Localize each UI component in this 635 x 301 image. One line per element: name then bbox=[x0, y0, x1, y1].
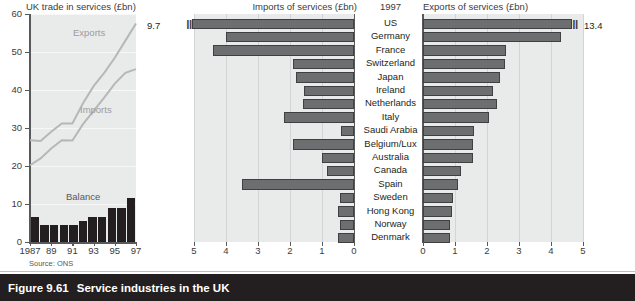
exports-x-tick-mark bbox=[583, 242, 584, 246]
country-label: Saudi Arabia bbox=[356, 124, 425, 135]
exports-bar bbox=[423, 166, 461, 177]
line-chart-x-tick-mark bbox=[136, 242, 137, 246]
imports-gridline bbox=[194, 14, 195, 242]
exports-us-outlier-label: 13.4 bbox=[584, 20, 603, 31]
imports-x-tick-mark bbox=[354, 242, 355, 246]
figure-service-industries-uk: UK trade in services (£bn) 6050403020100… bbox=[0, 0, 635, 301]
exports-chart-panel: Exports of services (£bn) 012345 ‖ 13.4 bbox=[421, 0, 635, 272]
country-label: Norway bbox=[356, 218, 425, 229]
exports-bar bbox=[423, 206, 452, 217]
exports-bar bbox=[423, 19, 572, 30]
country-label: Netherlands bbox=[356, 97, 425, 108]
country-label-column: 1997 USGermanyFranceSwitzerlandJapanIrel… bbox=[360, 0, 421, 272]
exports-bar bbox=[423, 86, 493, 97]
imports-bar bbox=[293, 139, 354, 150]
line-chart-y-tick-mark bbox=[25, 14, 30, 15]
exports-x-tick-mark bbox=[519, 242, 520, 246]
exports-bar bbox=[423, 99, 497, 110]
imports-bar bbox=[192, 19, 354, 30]
exports-x-tick-mark bbox=[455, 242, 456, 246]
exports-bar bbox=[423, 72, 500, 83]
line-chart-x-tick-label: 97 bbox=[121, 245, 151, 256]
line-chart-y-tick-mark bbox=[25, 166, 30, 167]
figure-number: Figure 9.61 bbox=[8, 282, 69, 294]
exports-x-tick-label: 0 bbox=[416, 245, 430, 256]
exports-x-tick-mark bbox=[423, 242, 424, 246]
country-label: Belgium/Lux bbox=[356, 138, 425, 149]
exports-gridline bbox=[551, 14, 552, 242]
imports-bar bbox=[303, 99, 354, 110]
imports-bar bbox=[284, 112, 354, 123]
country-label: Sweden bbox=[356, 191, 425, 202]
figure-caption-bar: Figure 9.61 Service industries in the UK bbox=[0, 274, 635, 301]
country-label: Hong Kong bbox=[356, 205, 425, 216]
exports-bar bbox=[423, 153, 473, 164]
line-chart-y-tick-label: 50 bbox=[0, 46, 22, 57]
series-label-exports: Exports bbox=[73, 27, 105, 38]
imports-bar bbox=[338, 233, 354, 244]
country-label: Denmark bbox=[356, 231, 425, 242]
imports-x-tick-mark bbox=[258, 242, 259, 246]
imports-us-outlier-label: 9.7 bbox=[147, 20, 160, 31]
imports-chart-panel: Imports of services (£bn) 543210 ‖ 9.7 bbox=[160, 0, 360, 272]
exports-gridline bbox=[519, 14, 520, 242]
line-series-imports bbox=[30, 69, 136, 165]
exports-break-mark-icon: ‖ bbox=[572, 18, 578, 31]
exports-x-tick-label: 4 bbox=[544, 245, 558, 256]
exports-x-tick-mark bbox=[487, 242, 488, 246]
imports-bar bbox=[304, 86, 354, 97]
country-label: Spain bbox=[356, 178, 425, 189]
line-chart-x-tick-mark bbox=[115, 242, 116, 246]
line-chart-y-tick-mark bbox=[25, 90, 30, 91]
exports-bar bbox=[423, 179, 458, 190]
line-chart-x-tick-mark bbox=[72, 242, 73, 246]
exports-bar bbox=[423, 126, 474, 137]
line-chart-y-tick-mark bbox=[25, 204, 30, 205]
line-chart-y-tick-mark bbox=[25, 128, 30, 129]
exports-bar bbox=[423, 45, 506, 56]
line-chart-x-tick-mark bbox=[30, 242, 31, 246]
exports-bar bbox=[423, 193, 453, 204]
imports-bar bbox=[213, 45, 354, 56]
line-chart-y-tick-label: 10 bbox=[0, 198, 22, 209]
imports-bar bbox=[340, 220, 354, 231]
imports-x-tick-label: 2 bbox=[283, 245, 297, 256]
country-label: Switzerland bbox=[356, 57, 425, 68]
country-label: US bbox=[356, 17, 425, 28]
exports-bar bbox=[423, 233, 450, 244]
caption-divider bbox=[0, 271, 635, 272]
imports-x-tick-label: 1 bbox=[315, 245, 329, 256]
country-label: Ireland bbox=[356, 84, 425, 95]
line-chart-x-tick-mark bbox=[94, 242, 95, 246]
country-label: France bbox=[356, 44, 425, 55]
series-label-balance: Balance bbox=[66, 191, 100, 202]
line-chart-y-tick-label: 20 bbox=[0, 160, 22, 171]
figure-title: Service industries in the UK bbox=[77, 282, 230, 294]
imports-chart-title: Imports of services (£bn) bbox=[252, 1, 357, 12]
exports-x-tick-label: 3 bbox=[512, 245, 526, 256]
exports-bar bbox=[423, 59, 505, 70]
line-chart-x-tick-mark bbox=[51, 242, 52, 246]
exports-x-tick-label: 1 bbox=[448, 245, 462, 256]
imports-bar bbox=[242, 179, 354, 190]
exports-bar bbox=[423, 220, 450, 231]
imports-x-tick-mark bbox=[194, 242, 195, 246]
imports-x-tick-label: 5 bbox=[187, 245, 201, 256]
exports-chart-title: Exports of services (£bn) bbox=[423, 1, 528, 12]
country-label: Japan bbox=[356, 71, 425, 82]
country-label: Italy bbox=[356, 111, 425, 122]
imports-bar bbox=[296, 72, 354, 83]
imports-bar bbox=[338, 206, 354, 217]
line-chart-series-svg bbox=[0, 0, 158, 272]
year-header: 1997 bbox=[360, 1, 421, 12]
series-label-imports: Imports bbox=[80, 104, 112, 115]
exports-x-tick-label: 2 bbox=[480, 245, 494, 256]
line-chart-y-tick-label: 30 bbox=[0, 122, 22, 133]
imports-bar bbox=[322, 153, 354, 164]
imports-x-tick-label: 3 bbox=[251, 245, 265, 256]
country-label: Germany bbox=[356, 30, 425, 41]
exports-bar bbox=[423, 139, 473, 150]
line-chart-panel: UK trade in services (£bn) 6050403020100… bbox=[0, 0, 158, 272]
exports-bar bbox=[423, 32, 561, 43]
exports-gridline bbox=[583, 14, 584, 242]
